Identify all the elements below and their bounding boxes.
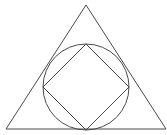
inscribed-circle: [43, 44, 129, 130]
outer-triangle: [6, 5, 166, 129]
geometry-diagram: [0, 0, 167, 135]
